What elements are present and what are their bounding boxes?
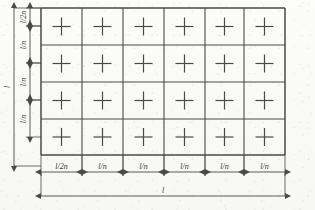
horizontal-dimension-label: l/n — [180, 162, 188, 171]
horizontal-dimension-label: l/n — [98, 162, 106, 171]
horizontal-dimension-label: l/n — [220, 162, 228, 171]
vertical-overall-label: l — [3, 86, 12, 88]
vertical-dimension-label: l/n — [19, 40, 28, 48]
vertical-dimension-label: l/n — [19, 77, 28, 85]
horizontal-overall-label: l — [162, 186, 164, 195]
dimension-labels-layer: l/2nl/nl/nl/nl/nl/nll/2nl/nl/nl/nl — [0, 0, 315, 210]
engineering-grid-diagram: l/2nl/nl/nl/nl/nl/nll/2nl/nl/nl/nl — [0, 0, 315, 210]
horizontal-dimension-label: l/2n — [55, 162, 67, 171]
vertical-dimension-label: l/2n — [19, 11, 28, 23]
vertical-dimension-label: l/n — [19, 114, 28, 122]
horizontal-dimension-label: l/n — [260, 162, 268, 171]
horizontal-dimension-label: l/n — [139, 162, 147, 171]
